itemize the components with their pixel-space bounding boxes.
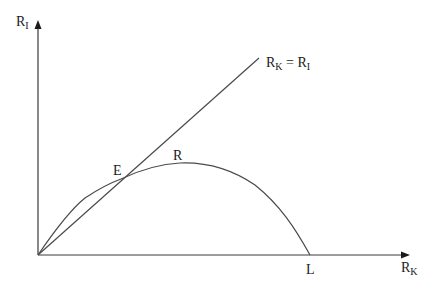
point-e-label: E xyxy=(113,163,122,178)
point-l-label: L xyxy=(306,262,315,277)
x-axis-arrow-icon xyxy=(401,252,410,259)
y-axis-arrow-icon xyxy=(35,20,42,29)
equality-line-label: RK = RI xyxy=(266,55,310,72)
point-r-label: R xyxy=(173,148,183,163)
y-axis-label: RI xyxy=(16,14,29,31)
x-axis-label: RK xyxy=(401,260,418,277)
equality-line xyxy=(38,58,259,255)
rk-curve xyxy=(38,163,310,255)
rk-ri-diagram: RI RK RK = RI E R L xyxy=(0,0,434,287)
